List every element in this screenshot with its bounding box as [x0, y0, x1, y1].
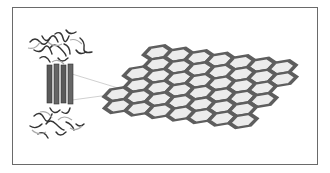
figure-illustration	[0, 0, 330, 173]
protein-loops-top	[30, 30, 92, 62]
hexagonal-lattice	[91, 44, 310, 129]
helix-bundle	[47, 64, 73, 104]
